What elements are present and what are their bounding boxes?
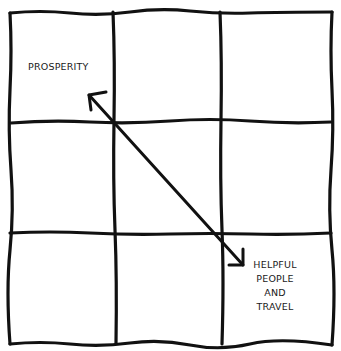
label-line: TRAVEL (247, 300, 303, 314)
label-line: AND (247, 286, 303, 300)
grid-line-horizontal-1 (11, 120, 331, 124)
grid-border-right (330, 12, 334, 345)
grid-border-left (8, 13, 12, 344)
grid-line-horizontal-2 (10, 232, 331, 234)
grid-line-vertical-2 (220, 12, 223, 344)
label-prosperity: PROSPERITY (28, 60, 89, 74)
label-line: HELPFUL (247, 258, 303, 272)
grid-border-bottom (10, 341, 332, 348)
label-helpful-people-and-travel: HELPFUL PEOPLE AND TRAVEL (247, 258, 303, 314)
label-line: PEOPLE (247, 272, 303, 286)
grid-border-top (10, 10, 332, 15)
arrowhead-up-left-icon (89, 92, 106, 110)
grid-line-vertical-1 (113, 12, 116, 343)
